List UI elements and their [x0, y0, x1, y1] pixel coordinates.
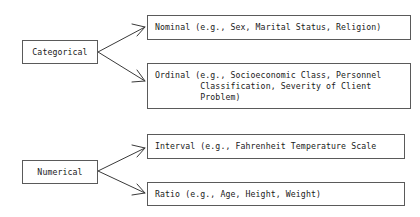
ratio-box: Ratio (e.g., Age, Height, Weight) [147, 182, 405, 206]
ordinal-box: Ordinal (e.g., Socioeconomic Class, Pers… [147, 63, 411, 109]
arrow-numerical-interval [98, 148, 145, 171]
categorical-box: Categorical [22, 40, 98, 64]
arrowhead-interval-icon [132, 145, 145, 157]
categorical-label: Categorical [32, 47, 87, 58]
arrowhead-ordinal-icon [132, 70, 145, 82]
ordinal-label: Ordinal (e.g., Socioeconomic Class, Pers… [155, 70, 381, 103]
numerical-label: Numerical [37, 167, 82, 178]
arrowhead-ratio-icon [132, 184, 145, 195]
ratio-label: Ratio (e.g., Age, Height, Weight) [155, 189, 321, 200]
arrow-numerical-ratio [98, 171, 145, 193]
interval-label: Interval (e.g., Fahrenheit Temperature S… [155, 141, 376, 152]
nominal-label: Nominal (e.g., Sex, Marital Status, Reli… [155, 22, 381, 33]
interval-box: Interval (e.g., Fahrenheit Temperature S… [147, 134, 405, 159]
arrow-categorical-nominal [98, 27, 145, 52]
arrow-categorical-ordinal [98, 52, 145, 81]
arrowhead-nominal-icon [132, 24, 145, 36]
nominal-box: Nominal (e.g., Sex, Marital Status, Reli… [147, 15, 411, 40]
numerical-box: Numerical [22, 160, 98, 184]
